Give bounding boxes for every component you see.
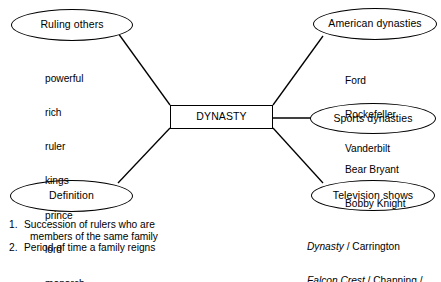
list-item: kings <box>45 175 85 186</box>
list-item: Dynasty / Carrington <box>307 241 423 252</box>
node-american-dynasties-label: American dynasties <box>328 18 421 30</box>
node-ruling-others[interactable]: Ruling others <box>11 9 133 41</box>
list-item-text: Period of time a family reigns <box>24 242 209 254</box>
list-item: Rockefeller <box>345 109 396 120</box>
list-item-number: 1. <box>9 219 24 231</box>
list-item: Bear Bryant <box>345 164 406 175</box>
list-item: rich <box>45 107 85 118</box>
node-dynasty-center[interactable]: DYNASTY <box>170 105 273 129</box>
node-ruling-others-label: Ruling others <box>40 19 103 31</box>
edge-dynasty-american-dynasties <box>273 36 323 105</box>
list-item: 1. Succession of rulers who are <box>9 219 209 231</box>
list-item: 2. Period of time a family reigns <box>9 242 209 254</box>
list-item-number: 2. <box>9 242 24 254</box>
list-item: powerful <box>45 73 85 84</box>
show-detail: / Carrington <box>344 241 400 252</box>
edge-dynasty-television-shows <box>273 128 323 183</box>
node-dynasty-center-label: DYNASTY <box>196 111 246 123</box>
show-title: Dynasty <box>307 241 344 252</box>
list-item-text: Succession of rulers who are <box>24 219 209 231</box>
list-item-continuation: members of the same family <box>30 231 209 243</box>
concept-map: Ruling others American dynasties Sports … <box>0 0 441 282</box>
definition-numbered-list: 1. Succession of rulers who are members … <box>9 219 209 254</box>
page-caption <box>8 273 433 281</box>
list-item: Ford <box>345 75 396 86</box>
edge-dynasty-definition <box>118 128 170 183</box>
list-item: ruler <box>45 141 85 152</box>
edge-dynasty-ruling-others <box>118 33 170 105</box>
list-item: Bobby Knight <box>345 198 406 209</box>
node-american-dynasties[interactable]: American dynasties <box>313 8 437 40</box>
